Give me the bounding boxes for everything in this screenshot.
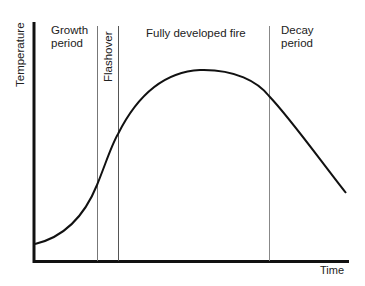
decay-label-line2: period bbox=[281, 37, 314, 50]
decay-label-line1: Decay bbox=[281, 24, 314, 37]
flashover-label: Flashover bbox=[102, 32, 114, 83]
decay-period-label: Decay period bbox=[281, 24, 314, 50]
fully-developed-fire-label: Fully developed fire bbox=[146, 27, 246, 40]
growth-label-line2: period bbox=[51, 37, 88, 50]
growth-label-line1: Growth bbox=[51, 24, 88, 37]
growth-period-label: Growth period bbox=[51, 24, 88, 50]
x-axis-label: Time bbox=[320, 264, 344, 277]
y-axis-label: Temperature bbox=[14, 22, 26, 87]
temperature-curve bbox=[35, 70, 346, 244]
